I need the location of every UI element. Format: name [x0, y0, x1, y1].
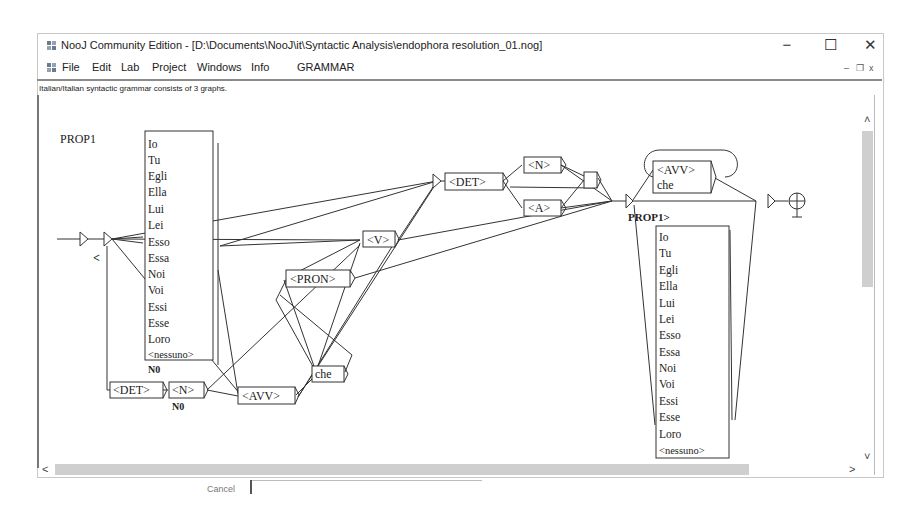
node-a-top[interactable]: <A>	[524, 200, 566, 216]
vertical-scrollbar-thumb[interactable]	[862, 131, 873, 287]
svg-text:Esso: Esso	[148, 236, 170, 248]
svg-text:Ella: Ella	[659, 280, 678, 292]
node-avv[interactable]: <AVV>	[238, 387, 299, 404]
svg-text:Voi: Voi	[659, 378, 675, 390]
svg-text:Essa: Essa	[659, 346, 680, 358]
node-det-bottom[interactable]: <DET>	[110, 382, 167, 398]
svg-text:Io: Io	[148, 138, 158, 150]
svg-text:Voi: Voi	[148, 284, 164, 296]
svg-text:Lei: Lei	[659, 313, 674, 325]
svg-text:Lui: Lui	[148, 203, 164, 215]
svg-text:Lui: Lui	[659, 297, 675, 309]
horizontal-scrollbar-thumb[interactable]	[55, 464, 749, 475]
svg-text:<nessuno>: <nessuno>	[659, 445, 705, 456]
n0-label-list: N0	[148, 364, 160, 375]
node-n-bottom[interactable]: <N>	[169, 382, 208, 398]
svg-text:Noi: Noi	[659, 362, 676, 374]
scroll-up-arrow[interactable]: ˄	[864, 113, 870, 125]
grammar-graph[interactable]: Io Tu Egli Ella Lui Lei Esso Essa Noi Vo…	[0, 0, 910, 522]
svg-text:Tu: Tu	[148, 154, 161, 166]
svg-text:Egli: Egli	[148, 170, 167, 183]
open-bracket-label: <	[93, 251, 100, 265]
svg-text:Noi: Noi	[148, 268, 165, 280]
svg-text:Loro: Loro	[148, 333, 171, 345]
close-prop1-label: PROP1>	[628, 211, 670, 223]
scroll-down-arrow[interactable]: ˅	[864, 450, 870, 462]
node-avv-che-loop[interactable]: <AVV> che	[653, 161, 716, 193]
node-v[interactable]: <V>	[363, 231, 399, 247]
svg-text:Essa: Essa	[148, 252, 169, 264]
svg-text:che: che	[315, 367, 332, 381]
svg-text:<N>: <N>	[172, 383, 194, 397]
svg-text:<A>: <A>	[528, 201, 550, 215]
node-pron[interactable]: <PRON>	[286, 270, 355, 287]
left-border	[37, 95, 39, 468]
node-empty-box[interactable]	[584, 172, 601, 188]
svg-text:<AVV>: <AVV>	[242, 389, 280, 403]
svg-text:Lei: Lei	[148, 219, 163, 231]
node-n-top[interactable]: <N>	[524, 157, 566, 173]
svg-text:Io: Io	[659, 231, 669, 243]
svg-text:<DET>: <DET>	[113, 383, 150, 397]
scroll-right-arrow[interactable]: >	[849, 463, 855, 475]
svg-text:<N>: <N>	[528, 158, 550, 172]
svg-text:che: che	[657, 178, 674, 192]
svg-text:Essi: Essi	[659, 395, 678, 407]
svg-text:Esse: Esse	[659, 411, 680, 423]
scroll-left-arrow[interactable]: <	[42, 463, 48, 475]
svg-text:<V>: <V>	[367, 233, 389, 247]
svg-text:<AVV>: <AVV>	[657, 163, 695, 177]
svg-text:Ella: Ella	[148, 186, 167, 198]
node-che[interactable]: che	[312, 366, 348, 382]
svg-text:Esse: Esse	[148, 317, 169, 329]
window-right-border	[874, 95, 875, 475]
svg-text:Egli: Egli	[659, 264, 678, 277]
cancel-button[interactable]: Cancel	[207, 484, 235, 494]
svg-text:<DET>: <DET>	[449, 175, 486, 189]
graph-name: PROP1	[60, 132, 96, 146]
n0-label-n: N0	[172, 401, 184, 412]
footer-input[interactable]	[252, 480, 482, 481]
svg-text:Essi: Essi	[148, 301, 167, 313]
svg-text:Tu: Tu	[659, 247, 672, 259]
svg-text:Esso: Esso	[659, 329, 681, 341]
svg-text:<PRON>: <PRON>	[290, 272, 336, 286]
svg-text:<nessuno>: <nessuno>	[148, 349, 194, 360]
node-det-top[interactable]: <DET>	[445, 173, 508, 190]
input-cursor-bar	[250, 480, 252, 494]
svg-text:Loro: Loro	[659, 428, 682, 440]
